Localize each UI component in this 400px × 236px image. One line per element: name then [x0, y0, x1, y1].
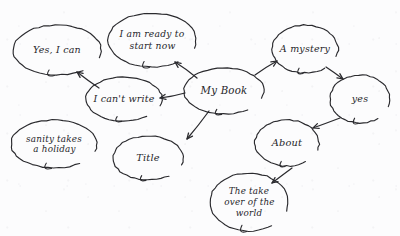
mind-map-canvas: Yes, I canI am ready tostart nowMy BookA…: [0, 0, 400, 236]
edge-shaft: [77, 72, 99, 88]
edge-a-mystery-to-yes[interactable]: [326, 67, 343, 79]
node-take-over-world[interactable]: The takeover of theworld: [210, 173, 287, 232]
node-label-line: About: [271, 137, 303, 148]
node-label-line: I am ready to: [119, 28, 185, 39]
node-label-line: start now: [129, 39, 175, 50]
node-label-about: About: [271, 137, 303, 148]
node-label-line: world: [236, 207, 263, 217]
node-i-cant-write[interactable]: I can't write: [86, 77, 163, 122]
node-label-take-over-world: The takeover of theworld: [224, 186, 274, 217]
node-label-i-cant-write: I can't write: [92, 93, 154, 104]
node-sanity-takes-a-holiday[interactable]: sanity takesa holiday: [11, 119, 97, 168]
node-label-line: Yes, I can: [33, 44, 81, 55]
node-my-book[interactable]: My Book: [184, 68, 265, 115]
node-label-my-book: My Book: [200, 85, 248, 96]
node-label-line: Title: [136, 152, 160, 163]
edge-shaft: [326, 67, 343, 79]
node-label-i-am-ready: I am ready tostart now: [119, 28, 185, 50]
node-label-line: My Book: [200, 85, 248, 96]
node-label-line: over of the: [224, 197, 274, 207]
edge-shaft: [313, 118, 340, 128]
node-label-line: I can't write: [92, 93, 154, 104]
node-label-a-mystery: A mystery: [279, 43, 331, 54]
edge-my-book-to-i-cant-write[interactable]: [160, 93, 185, 99]
node-label-title: Title: [136, 152, 160, 163]
node-a-mystery[interactable]: A mystery: [272, 25, 339, 74]
node-label-line: a holiday: [33, 144, 76, 154]
node-label-line: sanity takes: [26, 133, 82, 143]
mind-map-diagram: Yes, I canI am ready tostart nowMy BookA…: [0, 0, 400, 236]
edge-shaft: [187, 111, 209, 139]
node-yes-i-can[interactable]: Yes, I can: [13, 25, 101, 76]
node-title[interactable]: Title: [113, 136, 183, 181]
edge-my-book-to-title[interactable]: [187, 111, 209, 139]
node-about[interactable]: About: [254, 120, 319, 167]
edge-shaft: [255, 61, 277, 75]
edge-my-book-to-a-mystery[interactable]: [255, 61, 277, 75]
node-yes[interactable]: yes: [330, 75, 390, 124]
node-i-am-ready[interactable]: I am ready tostart now: [108, 14, 196, 68]
node-label-sanity-takes-a-holiday: sanity takesa holiday: [26, 133, 82, 154]
node-label-line: A mystery: [279, 43, 331, 54]
edge-yes-to-about[interactable]: [313, 118, 340, 128]
node-label-line: The take: [229, 186, 269, 196]
node-label-yes: yes: [351, 93, 368, 104]
edge-i-cant-write-to-yes-i-can[interactable]: [77, 72, 99, 88]
node-label-yes-i-can: Yes, I can: [33, 44, 81, 55]
node-label-line: yes: [351, 93, 368, 104]
